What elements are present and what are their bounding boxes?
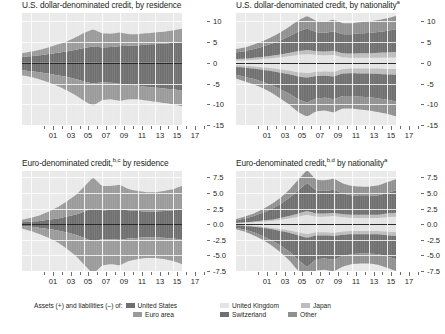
x-axis-tick-mark [53, 272, 54, 276]
gridline-vertical [155, 13, 156, 125]
gridline-vertical [387, 171, 388, 271]
x-axis-tick-label: 15 [173, 131, 181, 140]
x-axis-tick-label: 17 [191, 131, 199, 140]
x-axis-tick-mark [80, 126, 81, 129]
y-axis-tick-label: -15 [427, 121, 438, 130]
x-axis-tick-mark [382, 272, 383, 275]
x-axis-tick-label: 07 [102, 277, 110, 286]
gridline-vertical [280, 171, 281, 271]
x-axis-label-row: 010305070911131517 [44, 277, 204, 288]
gridline-vertical [102, 171, 103, 271]
x-axis-tick-label: 03 [281, 131, 289, 140]
y-axis-tick-mark [207, 42, 210, 43]
panel-title-footnote-2: a [384, 157, 387, 163]
x-axis-tick-label: 01 [263, 277, 271, 286]
gridline-vertical [387, 13, 388, 125]
x-axis-tick-mark [409, 272, 410, 276]
x-axis-tick-mark [53, 126, 54, 130]
panel-title-text-2: by residence [120, 158, 168, 168]
legend-label-switzerland: Switzerland [232, 311, 266, 318]
x-axis-tick-mark [418, 126, 419, 129]
y-axis-tick-mark [421, 255, 424, 256]
panel-title: Euro-denominated credit,b,d by nationali… [214, 158, 427, 170]
y-axis-tick-label: 2.5 [427, 204, 438, 213]
x-axis-tick-mark [311, 126, 312, 129]
x-axis-tick-label: 03 [67, 277, 75, 286]
x-axis-tick-label: 11 [352, 277, 360, 286]
x-axis-tick-mark [142, 272, 143, 276]
legend-entry-switzerland: Switzerland [220, 311, 266, 318]
x-axis-tick-label: 11 [352, 131, 360, 140]
x-axis-label-row: 010305070911131517 [258, 131, 418, 142]
gridline-vertical [173, 13, 174, 125]
legend-label-other: Other [300, 311, 317, 318]
gridline-vertical [263, 171, 264, 271]
gridline-vertical [334, 171, 335, 271]
x-axis-tick-mark [71, 272, 72, 276]
x-axis-tick-mark [258, 272, 259, 275]
x-axis: 010305070911131517 [44, 272, 204, 288]
x-axis-tick-label: 13 [370, 277, 378, 286]
x-axis: 010305070911131517 [44, 126, 204, 142]
panel-usd-by-residence: U.S. dollar-denominated credit, by resid… [0, 0, 213, 158]
gridline-vertical [138, 13, 139, 125]
gridline-vertical [245, 13, 246, 125]
gridline-vertical [316, 171, 317, 271]
legend-label-japan: Japan [313, 302, 331, 309]
x-axis-tick-mark [285, 272, 286, 276]
x-axis-tick-label: 13 [156, 131, 164, 140]
x-axis-tick-label: 09 [334, 131, 342, 140]
y-axis-tick-mark [207, 209, 210, 210]
gridline-vertical [352, 171, 353, 271]
x-axis-tick-mark [365, 272, 366, 275]
x-axis-tick-mark [365, 126, 366, 129]
x-axis-tick-mark [168, 272, 169, 275]
y-axis-tick-label: 10 [427, 17, 435, 26]
y-axis: 1050-5-10-15 [421, 13, 445, 125]
gridline-vertical [31, 171, 32, 271]
x-axis-tick-mark [391, 126, 392, 130]
gridline-vertical [352, 13, 353, 125]
y-axis-tick-mark [207, 63, 210, 64]
y-axis-tick-mark [421, 271, 424, 272]
x-axis-tick-mark [124, 272, 125, 276]
x-axis-tick-mark [151, 272, 152, 275]
plot-area [236, 13, 396, 125]
x-axis-tick-label: 09 [120, 131, 128, 140]
x-axis-tick-label: 09 [120, 277, 128, 286]
x-axis-tick-mark [204, 126, 205, 129]
x-axis-tick-mark [267, 272, 268, 276]
gridline-vertical [369, 13, 370, 125]
x-axis-tick-label: 01 [49, 131, 57, 140]
plot-wrapper: 1050-5-10-15 010305070911131517 [22, 13, 213, 125]
x-axis-tick-mark [276, 272, 277, 275]
panel-title: U.S. dollar-denominated credit, by natio… [214, 0, 427, 12]
x-axis-tick-mark [62, 126, 63, 129]
x-axis-tick-mark [294, 126, 295, 129]
x-axis-tick-mark [195, 272, 196, 276]
legend-entry-japan: Japan [301, 302, 331, 309]
y-axis-tick-label: -5 [427, 79, 434, 88]
x-axis-tick-mark [186, 272, 187, 275]
x-axis-tick-label: 01 [49, 277, 57, 286]
x-axis-tick-label: 13 [370, 131, 378, 140]
gridline-vertical [155, 171, 156, 271]
legend-swatch-united-states [126, 303, 135, 308]
x-axis-tick-label: 03 [67, 131, 75, 140]
panel-eur-by-nationality: Euro-denominated credit,b,d by nationali… [214, 158, 427, 298]
gridline-vertical [138, 171, 139, 271]
x-axis-tick-mark [374, 272, 375, 276]
panel-usd-by-nationality: U.S. dollar-denominated credit, by natio… [214, 0, 427, 158]
x-axis-tick-mark [71, 126, 72, 130]
x-axis-tick-label: 05 [84, 277, 92, 286]
x-axis-tick-mark [106, 272, 107, 276]
x-axis-tick-mark [142, 126, 143, 130]
legend-row: Switzerland Other [214, 310, 427, 319]
x-axis: 010305070911131517 [258, 272, 418, 288]
x-axis-tick-mark [418, 272, 419, 275]
panel-title-footnote: b,d [327, 157, 335, 163]
gridline-vertical [173, 171, 174, 271]
x-axis-tick-label: 05 [298, 277, 306, 286]
y-axis-tick-mark [207, 125, 210, 126]
